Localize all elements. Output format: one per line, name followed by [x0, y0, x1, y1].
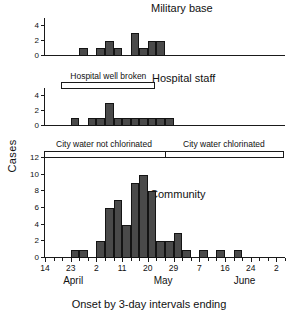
- bar: [182, 250, 191, 258]
- x-tick: [156, 258, 157, 261]
- x-tick: [71, 258, 72, 262]
- bar: [139, 175, 148, 258]
- plot-area-community: 02468101214232112029716242AprilMayJune: [44, 158, 284, 258]
- y-tick: [41, 55, 45, 56]
- annotation-label-hospital-well-broken: Hospital well broken: [70, 72, 146, 81]
- x-tick-label: 2: [265, 264, 287, 273]
- x-tick: [199, 258, 200, 262]
- y-tick: [41, 224, 45, 225]
- x-tick: [276, 258, 277, 262]
- y-tick-label: 0: [19, 52, 39, 60]
- bar: [122, 118, 131, 126]
- y-tick-label: 8: [19, 187, 39, 195]
- x-tick-label: 20: [137, 264, 159, 273]
- x-tick-label: 29: [163, 264, 185, 273]
- y-axis-label: Cases: [6, 126, 18, 186]
- bar: [234, 250, 243, 258]
- x-tick-label: 24: [240, 264, 262, 273]
- bar: [105, 208, 114, 258]
- x-tick-label: 14: [34, 264, 56, 273]
- annotation-label-city-water-chlorinated: City water chlorinated: [183, 140, 265, 149]
- y-tick-label: 12: [19, 154, 39, 162]
- bar: [114, 200, 123, 258]
- x-tick: [131, 258, 132, 261]
- y-tick: [41, 240, 45, 241]
- panel-military-base: Military base 024: [44, 18, 284, 56]
- annotation-divider: [165, 152, 166, 157]
- y-tick: [41, 110, 45, 111]
- x-tick: [208, 258, 209, 261]
- y-tick-label: 4: [19, 22, 39, 30]
- x-tick: [54, 258, 55, 261]
- bar: [156, 118, 165, 126]
- bar: [216, 250, 225, 258]
- x-tick: [62, 258, 63, 261]
- y-tick: [41, 207, 45, 208]
- annotation-label-city-water-not-chlorinated: City water not chlorinated: [56, 140, 152, 149]
- bar: [114, 118, 123, 126]
- panel-title-military-base: Military base: [151, 2, 213, 14]
- x-tick-label: 7: [188, 264, 210, 273]
- bar: [114, 48, 123, 56]
- x-tick-label: 2: [85, 264, 107, 273]
- y-tick-label: 4: [19, 92, 39, 100]
- x-tick: [216, 258, 217, 261]
- x-tick: [105, 258, 106, 261]
- bar: [88, 118, 97, 126]
- y-tick-label: 4: [19, 221, 39, 229]
- y-tick: [41, 190, 45, 191]
- month-label: April: [51, 276, 95, 286]
- plot-area-hospital-staff: 024: [44, 88, 284, 126]
- x-tick: [225, 258, 226, 262]
- bar: [79, 48, 88, 56]
- x-tick: [268, 258, 269, 261]
- bar: [131, 118, 140, 126]
- x-tick: [242, 258, 243, 261]
- x-tick: [45, 258, 46, 262]
- y-tick-label: 2: [19, 107, 39, 115]
- bar: [148, 118, 157, 126]
- x-tick: [148, 258, 149, 262]
- y-tick: [41, 25, 45, 26]
- x-tick-label: 11: [111, 264, 133, 273]
- x-tick: [165, 258, 166, 261]
- panel-title-hospital-staff: Hospital staff: [152, 72, 215, 84]
- bar: [199, 250, 208, 258]
- y-tick: [41, 40, 45, 41]
- y-tick: [41, 174, 45, 175]
- x-tick: [88, 258, 89, 261]
- bar: [165, 118, 174, 126]
- y-tick-label: 2: [19, 237, 39, 245]
- bar: [96, 118, 105, 126]
- y-tick: [41, 95, 45, 96]
- bar: [96, 241, 105, 258]
- bar: [139, 118, 148, 126]
- y-tick-label: 2: [19, 37, 39, 45]
- x-tick: [114, 258, 115, 261]
- bar: [105, 103, 114, 126]
- x-tick: [251, 258, 252, 262]
- bar: [79, 250, 88, 258]
- annotation-bar-city-water: [44, 151, 284, 158]
- bar: [122, 225, 131, 258]
- bar: [165, 241, 174, 258]
- bar: [139, 48, 148, 56]
- x-tick: [139, 258, 140, 261]
- annotation-bar-hospital-well-broken: [61, 82, 155, 89]
- x-tick: [174, 258, 175, 262]
- bar: [148, 41, 157, 56]
- x-tick-label: 16: [214, 264, 236, 273]
- y-tick-label: 0: [19, 122, 39, 130]
- y-tick: [41, 125, 45, 126]
- month-label: June: [223, 276, 267, 286]
- x-tick: [191, 258, 192, 261]
- x-tick-label: 23: [60, 264, 82, 273]
- bar: [71, 118, 80, 126]
- bar: [96, 48, 105, 56]
- bar: [71, 250, 80, 258]
- x-tick: [234, 258, 235, 261]
- bar: [174, 233, 183, 258]
- panel-community: Community 02468101214232112029716242Apri…: [44, 158, 284, 258]
- plot-area-military-base: 024: [44, 18, 284, 56]
- x-tick: [96, 258, 97, 262]
